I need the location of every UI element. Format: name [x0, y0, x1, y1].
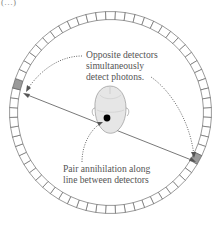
detector-segment: [124, 203, 135, 213]
annotation-bottom-line: line between detectors: [63, 174, 149, 185]
annotation-top: Opposite detectors simultaneously detect…: [86, 49, 160, 82]
head-icon: [92, 86, 129, 133]
annotation-top-line: Opposite detectors: [86, 49, 158, 60]
detector-segment: [106, 12, 116, 20]
detector-segment: [10, 108, 18, 118]
callout-bottom-to-point: [82, 123, 101, 162]
detector-segment: [202, 117, 211, 127]
detector-segment: [203, 108, 211, 118]
detector-segment: [115, 12, 125, 21]
detector-segment: [10, 98, 19, 108]
callout-top-to-left-detector: [27, 56, 82, 90]
detector-segment: [202, 98, 211, 108]
annotation-top-line: simultaneously: [86, 60, 144, 71]
detector-segment: [201, 88, 211, 99]
annihilation-point: [104, 115, 111, 122]
detector-segment: [11, 126, 21, 137]
callout-arrowhead-left: [26, 85, 31, 92]
annotation-bottom-line: Pair annihilation along: [63, 163, 151, 174]
pet-scanner-diagram: Opposite detectors simultaneously detect…: [0, 0, 220, 229]
detector-segment: [96, 204, 106, 213]
detector-segment: [86, 13, 97, 23]
detector-segment: [96, 12, 106, 21]
annotation-top-line: detect photons.: [86, 71, 144, 82]
annotation-bottom: Pair annihilation along line between det…: [63, 163, 153, 185]
detector-segment: [115, 204, 125, 213]
arrowhead-left: [23, 93, 30, 98]
detector-segment: [106, 205, 116, 213]
callout-top-to-right-detector: [151, 77, 194, 156]
detector-segment: [10, 117, 19, 127]
